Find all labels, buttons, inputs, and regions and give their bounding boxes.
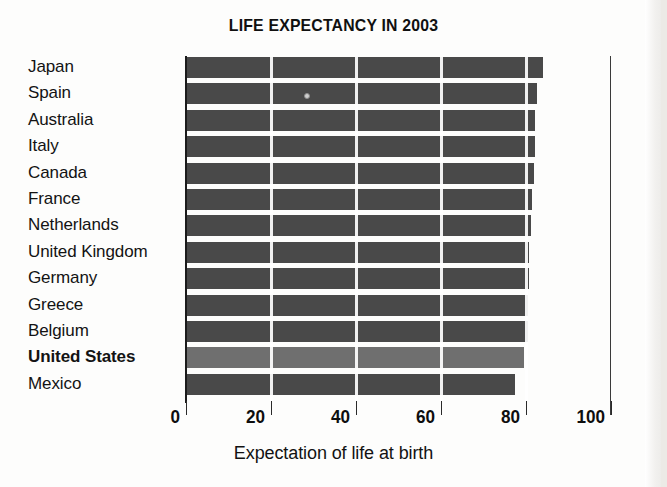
bar-row — [186, 57, 611, 78]
bar-italy — [186, 136, 535, 157]
category-label-united-states: United States — [28, 346, 135, 367]
bar-row — [186, 136, 611, 157]
x-tick-label-60: 60 — [386, 406, 435, 428]
x-tick-label-100: 100 — [556, 406, 605, 428]
category-label-spain: Spain — [28, 82, 71, 103]
bar-row — [186, 215, 611, 236]
bar-japan — [186, 57, 543, 78]
chart-title: LIFE EXPECTANCY IN 2003 — [23, 16, 643, 36]
bar-row — [186, 295, 611, 316]
category-axis-labels: JapanSpainAustraliaItalyCanadaFranceNeth… — [28, 57, 183, 401]
bar-row — [186, 374, 611, 395]
category-label-netherlands: Netherlands — [28, 214, 119, 235]
x-axis-tick-labels: 020406080100 — [0, 406, 667, 434]
category-label-italy: Italy — [28, 135, 59, 156]
category-label-canada: Canada — [28, 162, 87, 183]
bar-mexico — [186, 374, 515, 395]
category-label-greece: Greece — [28, 294, 83, 315]
bar-row — [186, 321, 611, 342]
bar-row — [186, 242, 611, 263]
x-tick-label-40: 40 — [301, 406, 350, 428]
bar-row — [186, 268, 611, 289]
x-tick-label-80: 80 — [471, 406, 520, 428]
category-label-germany: Germany — [28, 267, 97, 288]
gridline-80 — [525, 57, 528, 401]
bar-canada — [186, 163, 534, 184]
bar-row — [186, 347, 611, 368]
bar-france — [186, 189, 532, 210]
category-label-united-kingdom: United Kingdom — [28, 241, 148, 262]
gridline-20 — [270, 57, 273, 401]
right-axis-line — [610, 56, 611, 415]
category-label-australia: Australia — [28, 109, 93, 130]
category-label-france: France — [28, 188, 80, 209]
scan-speck — [304, 93, 310, 99]
y-axis-line — [185, 56, 187, 403]
category-label-mexico: Mexico — [28, 373, 81, 394]
gridline-40 — [355, 57, 358, 401]
x-tick-label-20: 20 — [216, 406, 265, 428]
bar-spain — [186, 83, 537, 104]
plot-area — [186, 57, 611, 401]
bar-row — [186, 83, 611, 104]
bar-row — [186, 189, 611, 210]
bar-netherlands — [186, 215, 531, 236]
bar-row — [186, 110, 611, 131]
chart-figure: LIFE EXPECTANCY IN 2003 JapanSpainAustra… — [0, 0, 667, 487]
bar-australia — [186, 110, 535, 131]
category-label-belgium: Belgium — [28, 320, 89, 341]
bar-row — [186, 163, 611, 184]
x-tick-label-0: 0 — [131, 406, 180, 428]
gridline-60 — [440, 57, 443, 401]
category-label-japan: Japan — [28, 56, 74, 77]
x-axis-title: Expectation of life at birth — [0, 443, 667, 464]
